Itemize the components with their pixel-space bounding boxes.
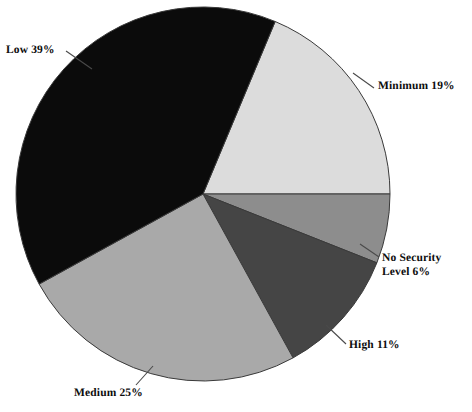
slice-label-high: High 11% [349,339,400,353]
pie-chart: Low 39% Minimum 19% No SecurityLevel 6% … [0,0,472,412]
leader-line-minimum [353,73,374,88]
slice-label-minimum: Minimum 19% [378,80,455,94]
leader-line-high [326,325,346,344]
slice-label-no-security-line1: No Security [382,252,441,266]
slice-label-no-security-level: No SecurityLevel 6% [382,252,441,279]
slice-label-medium: Medium 25% [74,387,143,401]
pie-chart-canvas [0,0,472,412]
slice-label-no-security-line2: Level 6% [382,266,441,280]
slice-label-low: Low 39% [6,44,55,58]
pie-slices-group [16,7,390,381]
